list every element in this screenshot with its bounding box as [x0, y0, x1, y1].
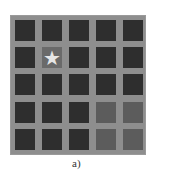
grid-board: ★ — [10, 15, 146, 155]
grid-cell-dark — [96, 20, 116, 41]
grid-cell-dark — [15, 74, 35, 95]
grid-cell-dark — [69, 47, 89, 68]
grid-cell-medium — [96, 129, 116, 150]
grid-cell-dark — [42, 102, 62, 123]
grid-cell-medium — [123, 129, 143, 150]
grid-cell-dark — [69, 20, 89, 41]
grid-cell-dark — [15, 20, 35, 41]
grid-cell-dark — [42, 74, 62, 95]
grid-cell-dark — [69, 74, 89, 95]
grid-cell-dark — [123, 20, 143, 41]
grid-cell-medium — [96, 102, 116, 123]
grid-cell-medium — [123, 102, 143, 123]
grid-cell-dark — [69, 129, 89, 150]
grid-cell-dark — [15, 47, 35, 68]
grid-cell-dark — [42, 129, 62, 150]
grid-cell-dark — [123, 47, 143, 68]
grid-cell-dark — [96, 47, 116, 68]
grid-cell-star: ★ — [42, 47, 62, 68]
star-icon: ★ — [43, 48, 61, 68]
figure-caption: a) — [72, 157, 81, 169]
grid-cell-dark — [42, 20, 62, 41]
grid-cell-dark — [69, 102, 89, 123]
grid-cell-dark — [15, 102, 35, 123]
grid-cell-dark — [15, 129, 35, 150]
grid-cell-dark — [123, 74, 143, 95]
grid-cell-dark — [96, 74, 116, 95]
